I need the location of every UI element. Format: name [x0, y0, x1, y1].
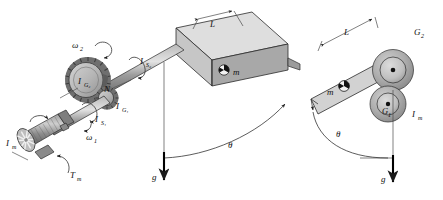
side-gear1-sub: 1 — [388, 112, 391, 118]
gear-ratio-label: N — [103, 84, 111, 94]
shaft1-inertia-label: I S₁ — [94, 114, 106, 126]
right-gravity-label: g — [381, 174, 386, 184]
motor-base — [35, 145, 54, 159]
svg-text:G: G — [414, 27, 421, 37]
side-beam-mass-label: m — [327, 87, 334, 97]
right-side-assembly: m L G 2 G 1 I — [311, 17, 424, 184]
shaft2-inertia-sub: S₂ — [146, 62, 151, 68]
beam-mass-label: m — [233, 67, 240, 77]
left-theta-arc — [164, 104, 285, 158]
left-isometric-assembly: L m I S₂ — [5, 11, 300, 182]
right-gravity-vector: g — [381, 155, 393, 184]
side-gear2-label: G 2 — [414, 27, 424, 39]
motor-inertia-leader-line — [12, 152, 28, 160]
motor-assembly — [13, 110, 74, 159]
gear1-inertia-label: I G₁ — [115, 101, 128, 113]
omega1-label: ω — [86, 132, 92, 142]
svg-text:I: I — [94, 114, 99, 124]
motor-torque-label: T — [70, 170, 76, 180]
beam-center-of-mass — [219, 65, 229, 75]
side-motor-inertia-sub: m — [418, 115, 423, 121]
svg-text:I: I — [5, 138, 10, 148]
motor-inertia-sub: m — [12, 144, 17, 150]
motor-torque-arrow: T m — [57, 156, 82, 182]
left-gravity-vector: g — [152, 152, 164, 182]
motor-torque-sub: m — [77, 176, 82, 182]
gear2-center — [391, 68, 396, 73]
diagram-svg: L m I S₂ — [0, 0, 443, 200]
side-beam-center-of-mass — [339, 81, 350, 92]
beam-length-label: L — [209, 19, 215, 29]
omega2-sub: 2 — [80, 46, 83, 52]
gear1-inertia-sub: G₁ — [122, 107, 128, 113]
right-theta-label: θ — [336, 129, 341, 139]
gear2-inertia-sub: G₂ — [84, 82, 90, 88]
svg-text:I: I — [115, 101, 120, 111]
side-length-dimension: L — [318, 17, 378, 51]
motor-inertia-label: I m — [5, 138, 17, 150]
omega1-sub: 1 — [94, 138, 97, 144]
side-motor-inertia-label: I m — [411, 109, 423, 121]
beam-end-stub — [288, 58, 300, 70]
omega2-label: ω — [72, 40, 78, 50]
side-gear-2 — [373, 50, 414, 91]
omega2-arrow: ω 2 — [72, 40, 112, 58]
side-length-label: L — [343, 27, 349, 37]
side-gear2-sub: 2 — [421, 33, 424, 39]
right-theta-arc — [313, 112, 388, 158]
left-theta-label: θ — [228, 140, 233, 150]
shaft2-body — [98, 44, 184, 94]
svg-text:I: I — [411, 109, 416, 119]
figure-canvas: L m I S₂ — [0, 0, 443, 200]
left-gravity-label: g — [152, 172, 157, 182]
shaft1-inertia-sub: S₁ — [101, 120, 106, 126]
side-gear-1: G 1 — [370, 86, 406, 122]
